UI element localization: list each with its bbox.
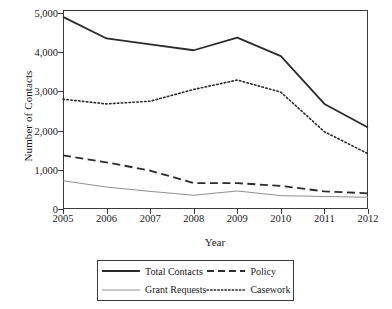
legend-label: Casework [250,284,290,295]
legend-item-total-contacts: Total Contacts [101,266,206,277]
line-chart-figure: Number of Contacts 01,0002,0003,0004,000… [0,0,392,309]
series-line-total-contacts [63,17,368,128]
dashed-line-swatch [206,267,246,275]
solid-line-swatch [101,267,141,275]
legend-label: Total Contacts [145,266,203,277]
x-axis-title: Year [60,236,370,248]
legend-label: Policy [250,266,276,277]
legend-item-grant-requests: Grant Requests [101,284,206,295]
dotted-line-swatch [206,286,246,294]
thin-solid-line-swatch [101,286,141,294]
legend-label: Grant Requests [145,284,206,295]
legend: Total Contacts Policy Grant Requests Cas… [97,260,294,301]
series-line-casework [63,80,368,154]
legend-item-casework: Casework [206,284,290,295]
legend-item-policy: Policy [206,266,290,277]
